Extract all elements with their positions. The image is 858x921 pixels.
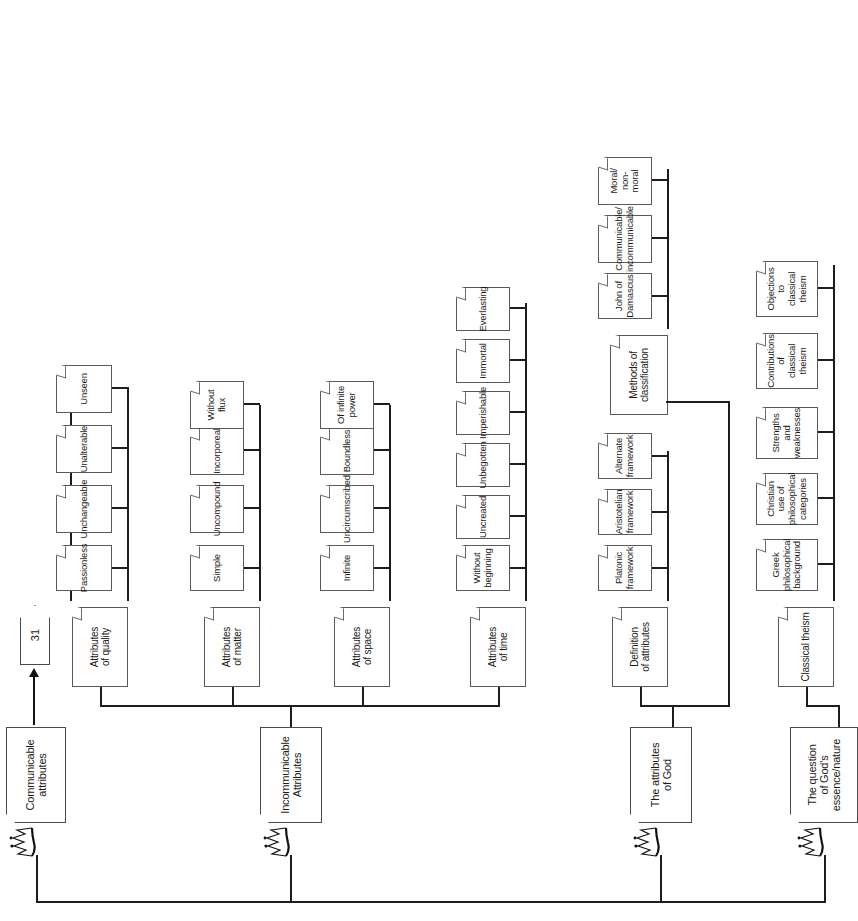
offpage-arrow [28, 665, 40, 725]
tick-definition-3 [652, 455, 668, 457]
tick-space-4 [374, 403, 390, 405]
tick-quality-1 [112, 567, 128, 569]
group-attributes-of-space[interactable]: Attributes of space [334, 607, 390, 687]
leaf-unseen[interactable]: Unseen [56, 365, 112, 413]
connector-essence-stem [838, 705, 840, 727]
tick-matter-4 [244, 403, 260, 405]
group-classical-theism[interactable]: Classical theism [778, 607, 834, 687]
leaf-unchangeable[interactable]: Unchangeable [56, 485, 112, 533]
connector-communicable [36, 855, 38, 903]
tick-time-6 [510, 307, 526, 309]
connector-space [362, 685, 364, 707]
spine-attributes-of-god [640, 705, 730, 707]
group-definition-of-attributes[interactable]: Definition of attributes [612, 607, 668, 687]
leafbar-classical-rail [833, 265, 835, 601]
spine-incommunicable [100, 705, 400, 707]
tick-classical-2 [818, 497, 834, 499]
connector-attributes-of-god-stem [672, 705, 674, 727]
leaf-uncompound[interactable]: Uncompound [190, 485, 244, 533]
connector-methods [728, 401, 730, 707]
tick-time-4 [510, 411, 526, 413]
leaf-communicable-incommunicable[interactable]: Communicable/ incommunicable [598, 215, 652, 263]
leafbar-definition-rail [667, 451, 669, 601]
tick-space-3 [374, 449, 390, 451]
leaf-without-beginning[interactable]: Without beginning [456, 545, 510, 591]
leaf-uncircumscribed[interactable]: Uncircumscribed [320, 485, 374, 533]
tick-definition-1 [652, 567, 668, 569]
leaf-unalterable[interactable]: Unalterable [56, 425, 112, 473]
leafbar-matter-rail [259, 405, 261, 601]
leaf-contributions-of-classical-theism[interactable]: Contributions of classical theism [756, 333, 818, 389]
crown-icon-communicable [6, 825, 36, 859]
leaf-imperishable[interactable]: Imperishable [456, 391, 510, 435]
tick-space-1 [374, 567, 390, 569]
leaf-unbegotten[interactable]: Unbegotten [456, 443, 510, 487]
tick-methods-1 [652, 295, 668, 297]
tick-space-2 [374, 507, 390, 509]
tick-methods-2 [652, 237, 668, 239]
tick-methods-3 [652, 179, 668, 181]
tick-classical-4 [818, 359, 834, 361]
leaf-incorporeal[interactable]: Incorporeal [190, 427, 244, 475]
spine-incommunicable-lower [400, 705, 500, 707]
crown-icon-attributes-of-god [630, 825, 660, 859]
leaf-alternate-framework[interactable]: Alternate framework [598, 433, 652, 479]
connector-essence [824, 855, 826, 903]
leaf-greek-philosophical-background[interactable]: Greek philosophical background [756, 539, 818, 591]
spine-main [36, 901, 726, 903]
group-methods-of-classification[interactable]: Methods of classification [610, 335, 668, 415]
connector-attributes-of-god [660, 855, 662, 903]
branch-the-attributes-of-god[interactable]: The attributes of God [630, 727, 692, 823]
leaf-everlasting[interactable]: Everlasting [456, 287, 510, 331]
leaf-john-of-damascus[interactable]: John of Damascus [598, 273, 652, 319]
crown-icon-essence [794, 825, 824, 859]
leaf-aristotelian-framework[interactable]: Aristotelian framework [598, 489, 652, 535]
spine-main-lower [660, 901, 826, 903]
leaf-boundless[interactable]: Boundless [320, 427, 374, 475]
leaf-immortal[interactable]: Immortal [456, 339, 510, 383]
tick-time-3 [510, 463, 526, 465]
tick-classical-1 [818, 563, 834, 565]
group-attributes-of-matter[interactable]: Attributes of matter [204, 607, 260, 687]
connector-incommunicable [290, 855, 292, 903]
tick-quality-2 [112, 507, 128, 509]
group-attributes-of-time[interactable]: Attributes of time [470, 607, 526, 687]
branch-question-of-gods-essence[interactable]: The question of God's essence/nature [790, 727, 858, 823]
connector-time [498, 685, 500, 707]
tick-quality-3 [112, 447, 128, 449]
leaf-objections-to-classical-theism[interactable]: Objections to classical theism [756, 261, 818, 317]
leaf-platonic-framework[interactable]: Platonic framework [598, 545, 652, 591]
connector-definition [640, 685, 642, 707]
connector-classical-theism [806, 685, 808, 707]
branch-communicable-attributes[interactable]: Communicable attributes [6, 727, 66, 823]
leafbar-time-rail [525, 303, 527, 601]
connector-matter [232, 685, 234, 707]
leaf-strengths-and-weaknesses[interactable]: Strengths and weaknesses [756, 407, 818, 459]
tick-time-5 [510, 359, 526, 361]
leaf-simple[interactable]: Simple [190, 545, 244, 591]
tick-definition-2 [652, 511, 668, 513]
tick-quality-4 [112, 387, 128, 389]
page-reference-31[interactable]: 31 [20, 605, 50, 665]
leaf-christian-use-of-philosophical-categories[interactable]: Christian use of philosophical categorie… [756, 473, 818, 525]
leafbar-methods-rail [667, 169, 669, 329]
tick-time-1 [510, 567, 526, 569]
branch-incommunicable-attributes[interactable]: Incommunicable Attributes [260, 727, 322, 823]
tick-time-2 [510, 515, 526, 517]
leaf-without-flux[interactable]: Without flux [190, 381, 244, 429]
leafbar-space-rail [389, 405, 391, 601]
group-attributes-of-quality[interactable]: Attributes of quality [72, 607, 128, 687]
leaf-infinite[interactable]: Infinite [320, 545, 374, 591]
tick-matter-2 [244, 507, 260, 509]
leaf-of-infinite-power[interactable]: Of infinite power [320, 381, 374, 429]
stem-methods [666, 401, 730, 403]
leaf-passionless[interactable]: Passionless [56, 545, 112, 591]
connector-incommunicable-stem [290, 705, 292, 727]
tick-classical-5 [818, 287, 834, 289]
leaf-uncreated[interactable]: Uncreated [456, 495, 510, 539]
tick-classical-3 [818, 431, 834, 433]
leaf-moral-non-moral[interactable]: Moral/ non-moral [598, 157, 652, 205]
tick-matter-3 [244, 449, 260, 451]
tick-matter-1 [244, 567, 260, 569]
